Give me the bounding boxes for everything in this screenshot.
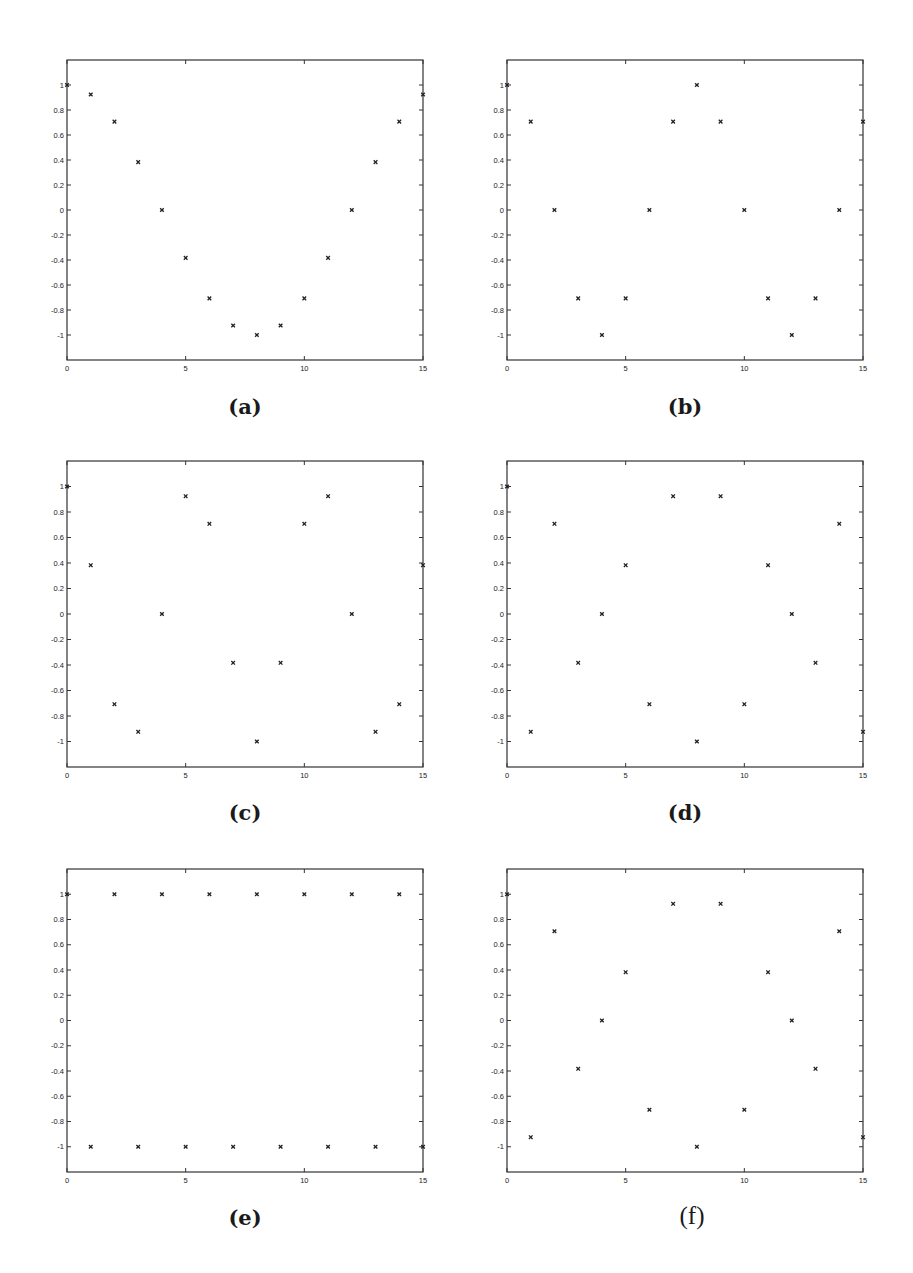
y-tick-label: -0.2: [491, 1041, 504, 1050]
scatter-plot-f: 10.80.60.40.20-0.2-0.4-0.6-0.8-1051015: [0, 0, 913, 1240]
y-tick-label: 0.6: [494, 940, 504, 949]
y-tick-label: -1: [497, 1142, 504, 1151]
data-point-marker: [576, 1067, 580, 1071]
data-point-marker: [529, 1135, 533, 1139]
x-tick-label: 10: [740, 1176, 748, 1185]
y-tick-label: 1: [500, 890, 504, 899]
caption-f: (f): [632, 1202, 752, 1230]
x-tick-label: 5: [624, 1176, 628, 1185]
axes-frame: [507, 869, 863, 1172]
y-tick-label: -0.6: [491, 1092, 504, 1101]
data-point-marker: [837, 929, 841, 933]
x-tick-label: 0: [505, 1176, 509, 1185]
data-point-marker: [695, 1145, 699, 1149]
data-point-marker: [553, 929, 557, 933]
data-point-marker: [624, 970, 628, 974]
x-tick-label: 15: [859, 1176, 867, 1185]
data-point-marker: [671, 902, 675, 906]
y-tick-label: -0.4: [491, 1067, 504, 1076]
y-tick-label: 0.8: [494, 915, 504, 924]
y-tick-label: -0.8: [491, 1117, 504, 1126]
y-tick-label: 0: [500, 1016, 504, 1025]
data-point-marker: [743, 1108, 747, 1112]
data-point-marker: [790, 1019, 794, 1023]
data-point-marker: [766, 970, 770, 974]
data-point-marker: [600, 1019, 604, 1023]
data-point-marker: [719, 902, 723, 906]
y-tick-label: 0.2: [494, 991, 504, 1000]
data-point-marker: [648, 1108, 652, 1112]
y-tick-label: 0.4: [494, 966, 504, 975]
data-point-marker: [814, 1067, 818, 1071]
